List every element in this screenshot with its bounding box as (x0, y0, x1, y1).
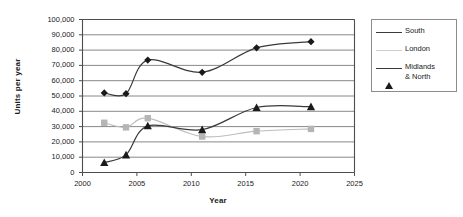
y-tick-label: 80,000 (31, 45, 75, 54)
legend-label-london: London (402, 44, 430, 54)
legend-key-midlands-north (376, 62, 402, 74)
x-tick-label: 2015 (226, 179, 266, 188)
legend-item-london[interactable]: London (376, 44, 430, 56)
data-point-marker (253, 128, 259, 134)
y-tick-label: 90,000 (31, 30, 75, 39)
y-axis-title: Units per year (13, 44, 22, 130)
y-tick-label: 30,000 (31, 122, 75, 131)
data-point-marker (307, 38, 314, 45)
y-tick-label: 20,000 (31, 137, 75, 146)
data-point-marker (199, 133, 205, 139)
triangle-icon (385, 65, 393, 83)
legend-line-london (376, 50, 402, 51)
x-tick-label: 2025 (335, 179, 375, 188)
legend-item-midlands-north[interactable]: Midlands & North (376, 62, 435, 74)
data-point-marker (145, 115, 151, 121)
data-point-marker (144, 56, 151, 63)
x-tick-label: 2020 (280, 179, 320, 188)
series-lines (104, 42, 311, 163)
x-axis-title: Year (82, 196, 354, 205)
legend-item-south[interactable]: South (376, 26, 425, 38)
legend-line-south (376, 32, 402, 33)
legend-label-south: South (402, 26, 425, 36)
data-point-marker (101, 89, 108, 96)
data-point-marker (199, 69, 206, 76)
data-point-marker (308, 126, 314, 132)
data-point-marker (123, 124, 129, 130)
x-tick-label: 2010 (171, 179, 211, 188)
x-tick-label: 2005 (117, 179, 157, 188)
legend-key-london (376, 44, 402, 56)
series-markers (100, 38, 315, 166)
y-tick-label: 60,000 (31, 76, 75, 85)
chart-legend: South London Midlands & North (371, 19, 457, 92)
legend-label-midlands-north: Midlands & North (402, 62, 435, 81)
legend-key-south (376, 26, 402, 38)
y-tick-label: 40,000 (31, 106, 75, 115)
data-point-marker (101, 120, 107, 126)
y-tick-label: 0 (31, 168, 75, 177)
y-tick-label: 10,000 (31, 152, 75, 161)
line-chart: Units per year Year 010,00020,00030,0004… (0, 0, 463, 217)
y-tick-label: 50,000 (31, 91, 75, 100)
y-tick-label: 100,000 (31, 15, 75, 24)
x-tick-label: 2000 (63, 179, 103, 188)
y-tick-label: 70,000 (31, 60, 75, 69)
